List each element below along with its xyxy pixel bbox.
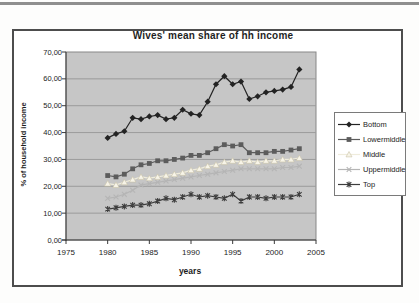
marker-square (114, 174, 119, 179)
x-tick-label: 1980 (91, 248, 125, 258)
x-tick-label: 1985 (132, 248, 166, 258)
marker-square (147, 161, 152, 166)
marker-square (105, 173, 110, 178)
legend-label: Middle (363, 150, 385, 159)
legend-item-uppermiddle: Uppermiddle (337, 163, 405, 176)
y-tick-label: 0,00 (34, 236, 62, 245)
legend-item-top: Top (337, 178, 405, 191)
legend-marker-square-icon (337, 134, 361, 145)
y-tick-label: 50,00 (34, 101, 62, 110)
marker-square (247, 150, 252, 155)
legend-label: Lowermiddle (363, 135, 406, 144)
marker-square (264, 150, 269, 155)
page: { "chart_data": { "type": "line", "title… (0, 0, 419, 303)
legend-label: Top (363, 180, 375, 189)
marker-square (255, 150, 260, 155)
legend-marker-diamond-icon (337, 119, 361, 130)
plot-background (66, 52, 316, 240)
marker-square (139, 162, 144, 167)
marker-square (214, 146, 219, 151)
marker-square (130, 166, 135, 171)
y-tick-label: 40,00 (34, 128, 62, 137)
y-tick-label: 60,00 (34, 74, 62, 83)
marker-square (155, 158, 160, 163)
y-tick-label: 30,00 (34, 155, 62, 164)
marker-square (197, 153, 202, 158)
marker-square (189, 153, 194, 158)
marker-square (180, 156, 185, 161)
marker-square (289, 148, 294, 153)
marker-square (239, 142, 244, 147)
legend-marker-star-icon (337, 179, 361, 190)
legend-marker-triangle-icon (337, 149, 361, 160)
x-tick-label: 2005 (299, 248, 333, 258)
legend-item-lowermiddle: Lowermiddle (337, 133, 405, 146)
marker-square (297, 146, 302, 151)
legend: BottomLowermiddleMiddleUppermiddleTop (334, 112, 406, 196)
x-tick-label: 2000 (257, 248, 291, 258)
marker-square (205, 150, 210, 155)
marker-square (280, 149, 285, 154)
legend-label: Uppermiddle (363, 165, 406, 174)
y-axis-title: % of household income (19, 90, 28, 200)
x-tick-label: 1975 (49, 248, 83, 258)
marker-square (172, 157, 177, 162)
marker-square (122, 172, 127, 177)
y-tick-label: 10,00 (34, 209, 62, 218)
legend-label: Bottom (363, 120, 387, 129)
x-axis-title: years (140, 266, 240, 276)
marker-square (222, 142, 227, 147)
x-tick-label: 1995 (216, 248, 250, 258)
marker-square (272, 149, 277, 154)
marker-square (230, 144, 235, 149)
legend-item-bottom: Bottom (337, 118, 405, 131)
legend-item-middle: Middle (337, 148, 405, 161)
y-tick-label: 20,00 (34, 182, 62, 191)
marker-square (164, 158, 169, 163)
x-tick-label: 1990 (174, 248, 208, 258)
y-tick-label: 70,00 (34, 48, 62, 57)
legend-marker-x-icon (337, 164, 361, 175)
